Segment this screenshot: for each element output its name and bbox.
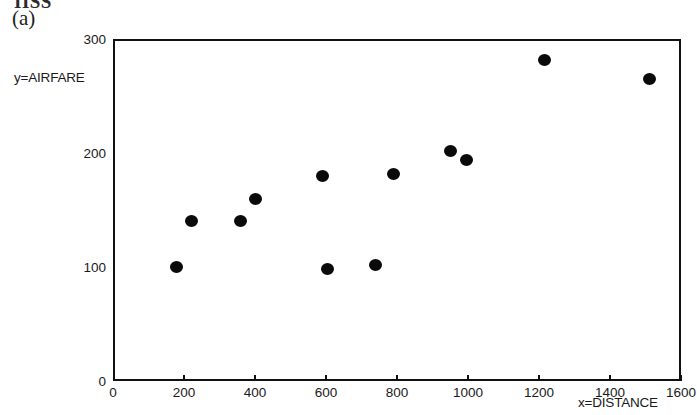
x-axis-tick-label: 800 — [386, 385, 409, 400]
x-axis-tick-label: 1000 — [453, 385, 483, 400]
data-point — [185, 215, 198, 227]
data-point — [316, 170, 329, 182]
x-axis-tick-mark — [183, 375, 185, 381]
plot-frame — [113, 39, 681, 381]
y-axis-tick-label: 100 — [83, 260, 106, 275]
x-axis-tick-mark — [254, 375, 256, 381]
data-point — [387, 168, 400, 180]
data-point — [369, 259, 382, 271]
x-axis-tick-marks — [113, 375, 681, 383]
y-axis-tick-label: 200 — [83, 146, 106, 161]
x-axis-tick-mark — [538, 375, 540, 381]
data-point — [538, 54, 551, 66]
x-axis-tick-labels: 02004006008001000120014001600 — [113, 385, 681, 405]
x-axis-tick-mark — [467, 375, 469, 381]
scatter-plot — [113, 39, 681, 381]
x-axis-tick-mark — [609, 375, 611, 381]
x-axis-tick-mark — [680, 375, 682, 381]
x-axis-tick-label: 1400 — [595, 385, 625, 400]
x-axis-tick-mark — [325, 375, 327, 381]
data-point — [249, 193, 262, 205]
data-point — [643, 73, 656, 85]
panel-label: (a) — [12, 8, 35, 29]
y-axis-tick-label: 0 — [98, 374, 106, 389]
x-axis-tick-label: 400 — [244, 385, 267, 400]
data-point — [460, 154, 473, 166]
x-axis-tick-label: 0 — [109, 385, 117, 400]
x-axis-tick-label: 600 — [315, 385, 338, 400]
x-axis-tick-label: 1200 — [524, 385, 554, 400]
x-axis-tick-label: 1600 — [666, 385, 696, 400]
x-axis-tick-mark — [396, 375, 398, 381]
y-axis-tick-label: 300 — [83, 32, 106, 47]
y-axis-tick-labels: 0100200300 — [60, 39, 106, 381]
data-point — [444, 145, 457, 157]
x-axis-tick-label: 200 — [173, 385, 196, 400]
